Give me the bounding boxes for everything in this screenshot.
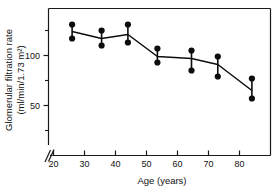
data-point-lower — [154, 59, 160, 65]
x-ticklabel-30: 30 — [79, 159, 89, 169]
data-point-lower — [188, 67, 194, 73]
data-point-lower — [249, 95, 255, 101]
x-ticklabel-70: 70 — [203, 159, 213, 169]
data-point-lower — [215, 73, 221, 79]
y-ticklabel-100: 100 — [25, 51, 40, 61]
data-point-lower — [99, 42, 105, 48]
data-point-upper — [249, 75, 255, 81]
gfr-vs-age-scatter-chart: 100 50 20 30 40 50 60 70 80 Age (years) … — [0, 0, 279, 189]
data-point-lower — [69, 35, 75, 41]
x-axis-title: Age (years) — [137, 175, 186, 186]
data-point-upper — [99, 27, 105, 33]
x-ticklabel-80: 80 — [234, 159, 244, 169]
data-point-lower — [125, 39, 131, 45]
data-point-upper — [154, 45, 160, 51]
x-ticklabel-60: 60 — [172, 159, 182, 169]
data-point-upper — [188, 47, 194, 53]
y-axis-title-line1: Glomerular filtration rate — [3, 29, 14, 131]
data-point-upper — [69, 21, 75, 27]
data-point-upper — [215, 53, 221, 59]
y-ticklabel-50: 50 — [30, 101, 40, 111]
x-ticklabel-20: 20 — [48, 159, 58, 169]
y-axis-title-line2: (ml/min/1.73 m²) — [15, 45, 26, 114]
chart-figure: 100 50 20 30 40 50 60 70 80 Age (years) … — [0, 0, 279, 189]
data-point-upper — [125, 21, 131, 27]
x-ticklabel-50: 50 — [141, 159, 151, 169]
x-ticklabel-40: 40 — [110, 159, 120, 169]
